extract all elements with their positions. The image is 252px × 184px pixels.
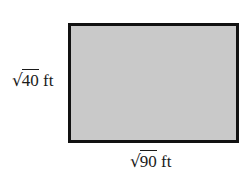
radicand: 90	[140, 150, 157, 171]
width-label: √90 ft	[130, 153, 171, 170]
unit: ft	[161, 152, 171, 171]
shaded-rectangle	[68, 23, 239, 143]
square-root-expression: √90	[130, 153, 157, 170]
unit: ft	[43, 71, 53, 90]
height-label: √40 ft	[12, 72, 53, 89]
square-root-expression: √40	[12, 72, 39, 89]
radicand: 40	[22, 69, 39, 90]
